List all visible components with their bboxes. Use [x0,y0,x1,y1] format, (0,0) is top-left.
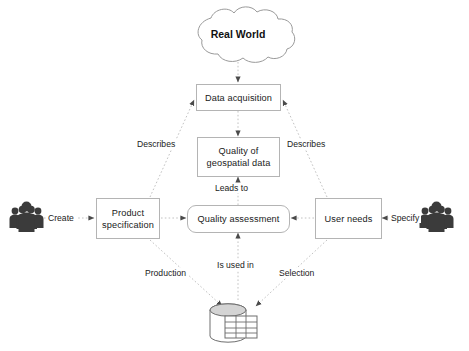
edge-label-selection: Selection [277,268,316,278]
node-quality-of-geospatial-data-line2: geospatial data [207,157,271,169]
node-data-acquisition-label: Data acquisition [205,92,272,104]
node-quality-of-geospatial-data[interactable]: Quality of geospatial data [197,137,280,177]
people-group-icon-users [420,202,454,233]
edge-label-describes-left: Describes [135,139,177,149]
edge-label-create: Create [46,213,76,223]
node-data-acquisition[interactable]: Data acquisition [196,84,281,111]
node-real-world-label: Real World [206,28,270,40]
edge-label-describes-right: Describes [285,139,327,149]
node-quality-of-geospatial-data-line1: Quality of [219,145,259,157]
node-product-specification-line2: specification [102,219,154,231]
people-group-icon-producers [10,202,44,233]
edge-label-leads-to: Leads to [213,183,250,193]
node-product-specification[interactable]: Product specification [96,198,160,239]
diagram-canvas: Real World Data acquisition Quality of g… [0,0,469,351]
node-quality-assessment[interactable]: Quality assessment [187,205,290,233]
node-user-needs-label: User needs [325,213,373,225]
node-quality-assessment-label: Quality assessment [198,213,280,225]
node-user-needs[interactable]: User needs [315,198,382,239]
database-table-icon [210,304,257,342]
edge-label-specify: Specify [389,213,421,223]
edge-label-is-used-in: Is used in [215,260,256,270]
node-product-specification-line1: Product [112,207,144,219]
edge-label-production: Production [143,268,188,278]
